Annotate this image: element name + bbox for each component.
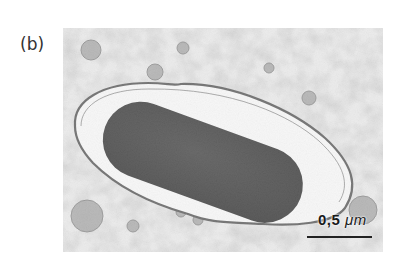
scale-bar-value: 0,5 bbox=[318, 211, 340, 228]
panel-label: (b) bbox=[20, 34, 44, 54]
scale-bar bbox=[307, 236, 372, 238]
scale-bar-unit: μm bbox=[345, 211, 367, 228]
scale-bar-label: 0,5 μm bbox=[318, 211, 367, 228]
